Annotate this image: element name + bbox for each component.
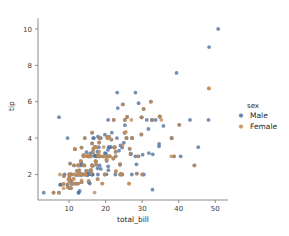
data-point: [91, 136, 95, 140]
data-point: [105, 135, 109, 139]
data-point: [72, 177, 76, 181]
data-point: [114, 150, 118, 154]
data-point: [119, 172, 123, 176]
data-point: [146, 127, 150, 131]
data-point: [130, 136, 134, 140]
data-point: [94, 145, 98, 149]
data-point: [73, 147, 77, 151]
x-tick-label: 20: [101, 205, 110, 213]
data-point: [124, 130, 128, 134]
data-point: [125, 136, 129, 140]
data-point: [117, 149, 121, 153]
data-point: [84, 169, 88, 173]
data-point: [76, 163, 80, 167]
data-point: [121, 103, 125, 107]
data-point: [188, 118, 192, 122]
data-point: [118, 163, 122, 167]
data-point: [77, 173, 81, 177]
data-point: [140, 173, 144, 177]
data-point: [90, 131, 94, 135]
data-point: [83, 136, 87, 140]
data-point: [113, 173, 117, 177]
data-point: [94, 159, 98, 163]
figure-background: [0, 0, 289, 236]
data-point: [140, 115, 144, 119]
data-point: [216, 27, 220, 31]
data-point: [100, 182, 104, 186]
data-point: [99, 167, 103, 171]
y-tick-label: 10: [23, 26, 32, 34]
legend-marker-male[interactable]: [239, 114, 243, 118]
data-point: [91, 150, 95, 154]
data-point: [177, 123, 181, 127]
data-point: [129, 118, 133, 122]
data-point: [196, 145, 200, 149]
data-point: [151, 188, 155, 192]
data-point: [135, 162, 139, 166]
legend-marker-female[interactable]: [239, 125, 243, 129]
data-point: [77, 191, 81, 195]
data-point: [96, 173, 100, 177]
data-point: [106, 118, 110, 122]
data-point: [67, 181, 71, 185]
data-point: [158, 114, 162, 118]
x-tick-label: 50: [211, 205, 220, 213]
data-point: [130, 173, 134, 177]
y-tick-label: 4: [28, 135, 33, 143]
data-point: [85, 154, 89, 158]
data-point: [115, 136, 119, 140]
data-point: [77, 168, 81, 172]
data-point: [62, 174, 66, 178]
data-point: [137, 101, 141, 105]
legend-label-male[interactable]: Male: [250, 111, 268, 120]
data-point: [105, 158, 109, 162]
data-point: [207, 45, 211, 49]
legend-title: sex: [247, 102, 259, 110]
data-point: [79, 160, 83, 164]
data-point: [162, 124, 166, 128]
x-tick-label: 30: [138, 205, 147, 213]
data-point: [109, 138, 113, 142]
data-point: [123, 123, 127, 127]
y-tick-label: 6: [28, 98, 33, 106]
data-point: [129, 152, 133, 156]
data-point: [116, 106, 120, 110]
data-point: [80, 146, 84, 150]
data-point: [89, 172, 93, 176]
data-point: [68, 162, 72, 166]
legend-label-female[interactable]: Female: [250, 122, 278, 131]
data-point: [151, 152, 155, 156]
data-point: [142, 107, 146, 111]
data-point: [90, 164, 94, 168]
data-point: [99, 154, 103, 158]
data-point: [175, 71, 179, 75]
data-point: [149, 100, 153, 104]
data-point: [127, 182, 131, 186]
data-point: [96, 177, 100, 181]
data-point: [136, 154, 140, 158]
x-tick-label: 10: [65, 205, 74, 213]
data-point: [207, 87, 211, 91]
data-point: [134, 91, 138, 95]
data-point: [72, 164, 76, 168]
data-point: [76, 182, 80, 186]
data-point: [90, 142, 94, 146]
data-point: [89, 168, 93, 172]
data-point: [84, 173, 88, 177]
data-point: [120, 143, 124, 147]
data-point: [112, 118, 116, 122]
data-point: [82, 153, 86, 157]
data-point: [72, 173, 76, 177]
data-point: [97, 141, 101, 145]
data-point: [94, 163, 98, 167]
data-point: [113, 146, 117, 150]
data-point: [135, 172, 139, 176]
data-point: [83, 164, 87, 168]
data-point: [93, 191, 97, 195]
data-point: [114, 169, 118, 173]
data-point: [150, 118, 154, 122]
data-point: [157, 142, 161, 146]
data-point: [154, 118, 158, 122]
data-point: [115, 91, 119, 95]
data-point: [62, 186, 66, 190]
